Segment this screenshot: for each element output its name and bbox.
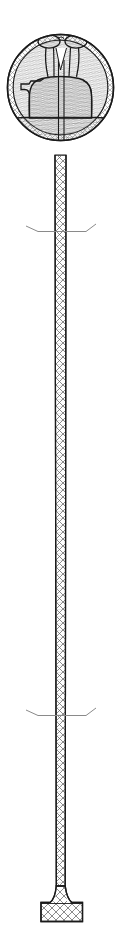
- spherical-head: [8, 35, 114, 164]
- technical-illustration-canvas: Sectional line drawing: hatched spherica…: [0, 0, 121, 938]
- figure-root: Sectional line drawing: hatched spherica…: [0, 0, 121, 938]
- shaft: [54, 155, 67, 887]
- base-foot: [40, 884, 84, 924]
- twin-cap-left: [38, 35, 60, 48]
- shaft-right-rail: [65, 155, 66, 886]
- base-lattice: [40, 884, 84, 924]
- central-stalk-left-inner: [54, 48, 55, 77]
- upper-body-mass: [29, 77, 92, 119]
